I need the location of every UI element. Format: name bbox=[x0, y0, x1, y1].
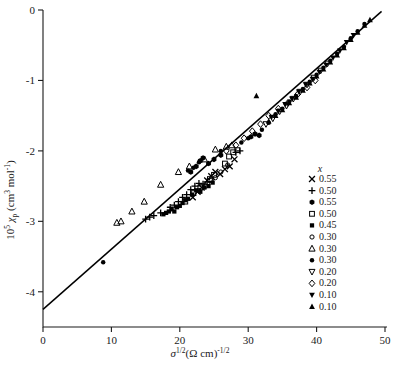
legend-label: 0.55 bbox=[319, 196, 337, 207]
legend-item-0.30-opencircle[interactable]: 0.30 bbox=[310, 231, 337, 242]
legend-label: 0.20 bbox=[319, 266, 337, 277]
legend-label: 0.50 bbox=[319, 208, 337, 219]
x-axis-label: σ1/2(Ω cm)-1/2 bbox=[171, 346, 230, 360]
y-tick-label: -3 bbox=[26, 215, 36, 227]
legend-item-0.55-filled-hex[interactable]: 0.55 bbox=[310, 196, 337, 207]
legend-item-0.10-filleddowntriangle[interactable]: 0.10 bbox=[309, 289, 336, 300]
legend-item-0.50-plus[interactable]: 0.50 bbox=[309, 185, 337, 196]
legend-item-0.50-opensquare[interactable]: 0.50 bbox=[310, 208, 337, 219]
y-tick-label: -1 bbox=[26, 74, 35, 86]
y-axis-label: 105 χp (cm3 mol-1) bbox=[3, 160, 19, 240]
x-tick-label: 20 bbox=[174, 334, 186, 346]
legend-item-0.55-cross[interactable]: 0.55 bbox=[309, 173, 336, 184]
x-tick-label: 50 bbox=[380, 334, 392, 346]
y-tick-label: 0 bbox=[30, 4, 36, 16]
legend-label: 0.55 bbox=[319, 173, 337, 184]
legend-item-0.10-filledtriangle[interactable]: 0.10 bbox=[309, 301, 336, 312]
legend-item-0.20-opendowntriangle[interactable]: 0.20 bbox=[309, 266, 336, 277]
legend-label: 0.45 bbox=[319, 219, 337, 230]
scatter-plot: 010203040500-1-2-3-4x0.550.500.550.500.4… bbox=[0, 0, 401, 369]
x-tick-label: 40 bbox=[311, 334, 323, 346]
legend-item-0.30-filledcircle[interactable]: 0.30 bbox=[310, 254, 337, 265]
legend-label: 0.50 bbox=[319, 185, 337, 196]
legend-label: 0.30 bbox=[319, 231, 337, 242]
legend-label: 0.10 bbox=[319, 289, 337, 300]
legend-label: 0.30 bbox=[319, 243, 337, 254]
x-tick-label: 30 bbox=[243, 334, 255, 346]
legend-label: 0.30 bbox=[319, 254, 337, 265]
y-tick-label: -4 bbox=[26, 286, 36, 298]
legend-item-0.45-filledsquare[interactable]: 0.45 bbox=[310, 219, 337, 230]
legend-item-0.30-opentriangle[interactable]: 0.30 bbox=[309, 243, 337, 254]
legend-item-0.20-opendiamond[interactable]: 0.20 bbox=[309, 277, 336, 288]
x-tick-label: 0 bbox=[40, 334, 46, 346]
legend-label: 0.20 bbox=[319, 277, 337, 288]
legend-label: 0.10 bbox=[319, 301, 337, 312]
y-tick-label: -2 bbox=[26, 145, 35, 157]
figure-container: 010203040500-1-2-3-4x0.550.500.550.500.4… bbox=[0, 0, 401, 369]
x-tick-label: 10 bbox=[106, 334, 118, 346]
